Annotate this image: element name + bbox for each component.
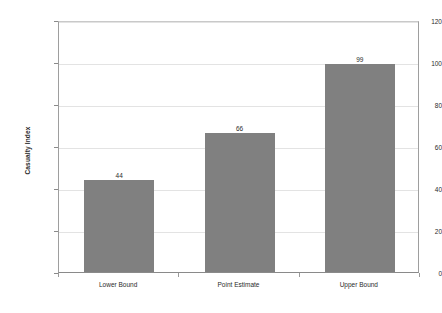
y-axis-tick-label: 20 (416, 228, 442, 235)
y-axis-tick-mark (54, 63, 58, 64)
x-axis-category-label: Lower Bound (73, 281, 163, 288)
x-axis-category-label: Upper Bound (314, 281, 404, 288)
x-axis-tick-mark (58, 273, 59, 277)
y-axis-tick-label: 60 (416, 144, 442, 151)
y-axis-tick-mark (54, 21, 58, 22)
bar-chart: Casualty Index 446699 Lower BoundPoint E… (0, 0, 442, 313)
bar (84, 180, 154, 272)
bar-value-label: 44 (99, 172, 139, 179)
gridline (59, 22, 418, 23)
x-axis-tick-mark (178, 273, 179, 277)
plot-area: 446699 (58, 21, 419, 273)
y-axis-tick-mark (54, 231, 58, 232)
y-axis-tick-mark (54, 105, 58, 106)
y-axis-tick-mark (54, 273, 58, 274)
bar (325, 64, 395, 272)
y-axis-tick-mark (54, 189, 58, 190)
bar (205, 133, 275, 272)
y-axis-tick-label: 120 (416, 18, 442, 25)
y-axis-tick-mark (54, 147, 58, 148)
y-axis-tick-label: 40 (416, 186, 442, 193)
x-axis-category-label: Point Estimate (194, 281, 284, 288)
bar-value-label: 99 (340, 56, 380, 63)
y-axis (0, 0, 58, 313)
y-axis-tick-label: 100 (416, 60, 442, 67)
bar-value-label: 66 (220, 125, 260, 132)
y-axis-tick-label: 80 (416, 102, 442, 109)
x-axis-tick-mark (299, 273, 300, 277)
y-axis-tick-label: 0 (416, 270, 442, 277)
